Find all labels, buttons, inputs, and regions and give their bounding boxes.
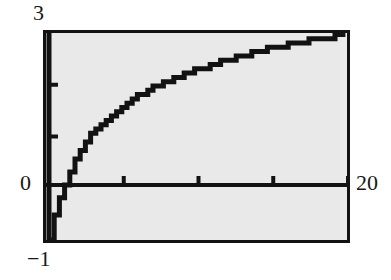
x-axis-max-label: 20 — [356, 172, 378, 194]
plot-frame — [43, 30, 350, 243]
y-axis-max-label: 3 — [33, 2, 44, 24]
y-axis-min-label: −1 — [27, 248, 50, 270]
figure-root: 3 0 −1 20 — [0, 0, 391, 280]
y-axis-origin-label: 0 — [20, 172, 31, 194]
